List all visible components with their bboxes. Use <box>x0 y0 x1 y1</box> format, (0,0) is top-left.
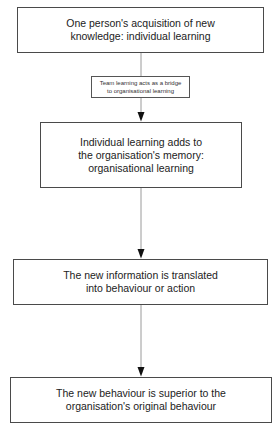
arrowhead-down-icon <box>138 112 145 122</box>
arrowhead-down-icon <box>138 367 145 377</box>
connector-layer <box>0 0 279 433</box>
arrowhead-down-icon <box>138 249 145 259</box>
edge-label-team-learning-bridge: Team learning acts as a bridge to organi… <box>91 76 190 98</box>
